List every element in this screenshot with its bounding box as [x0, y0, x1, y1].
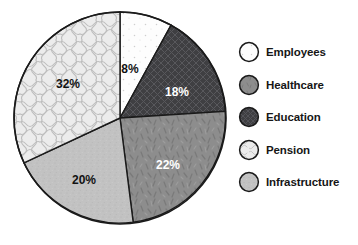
legend-item-healthcare[interactable]: Healthcare: [238, 69, 358, 102]
circle-swatch-pension-icon: [238, 139, 260, 161]
legend-label-pension: Pension: [266, 144, 310, 156]
circle-swatch-healthcare-icon: [238, 74, 260, 96]
pie-chart-area: 8% 18% 22% 20% 32%: [0, 0, 240, 245]
legend-label-infrastructure: Infrastructure: [266, 176, 339, 188]
circle-swatch-infrastructure-icon: [238, 171, 260, 193]
pie-chart-figure: 2019 GOVERNMENT BUDGET ALLOCATION: [0, 0, 358, 245]
legend-label-employees: Employees: [266, 46, 326, 58]
legend-item-employees[interactable]: Employees: [238, 36, 358, 69]
legend-label-healthcare: Healthcare: [266, 79, 324, 91]
pie-chart-svg: [0, 0, 240, 245]
circle-swatch-employees-icon: [238, 41, 260, 63]
legend-item-infrastructure[interactable]: Infrastructure: [238, 166, 358, 199]
pie-slice-healthcare[interactable]: [120, 111, 226, 222]
legend-label-education: Education: [266, 111, 321, 123]
legend-item-pension[interactable]: Pension: [238, 134, 358, 167]
legend-item-education[interactable]: Education: [238, 101, 358, 134]
circle-swatch-education-icon: [238, 106, 260, 128]
chart-legend: Employees Healthcare Education: [238, 36, 358, 199]
